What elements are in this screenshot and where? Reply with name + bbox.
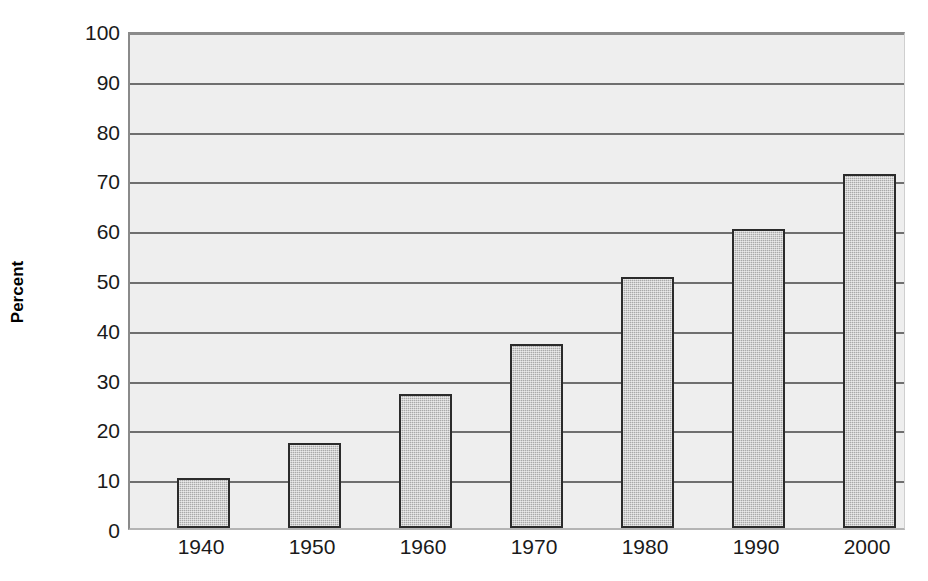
y-axis-tick-label: 90 [8,71,120,92]
bar-series [130,34,904,528]
x-axis-tick-label: 1990 [733,536,780,557]
bar [288,443,341,528]
y-axis-tick-label: 30 [8,370,120,391]
x-axis-tick-label: 1940 [178,536,225,557]
y-axis-tick-label: 10 [8,470,120,491]
y-axis-tick-label: 20 [8,420,120,441]
y-axis-tick-label: 0 [8,520,120,541]
y-axis-tick-label: 70 [8,171,120,192]
x-axis-tick-label: 1950 [289,536,336,557]
y-axis-tick-label: 60 [8,221,120,242]
y-axis-tick-label: 50 [8,271,120,292]
bar [510,344,563,528]
y-axis-tick-label: 100 [8,22,120,43]
plot-area [128,32,905,530]
x-axis-tick-label: 1970 [511,536,558,557]
bar [732,229,785,528]
bar [621,277,674,528]
bar [177,478,230,528]
bar-chart-figure: Percent 0102030405060708090100 194019501… [0,0,928,581]
x-axis-tick-label: 1960 [400,536,447,557]
x-axis-tick-label: 2000 [844,536,891,557]
x-axis-tick-label: 1980 [622,536,669,557]
x-axis-tick-labels: 1940195019601970198019902000 [128,536,905,576]
bar [843,174,896,528]
bar [399,394,452,528]
y-axis-tick-label: 40 [8,320,120,341]
y-axis-tick-labels: 0102030405060708090100 [0,0,120,581]
y-axis-tick-label: 80 [8,121,120,142]
